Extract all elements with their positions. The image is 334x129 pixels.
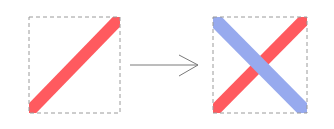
transformation-diagram [0, 0, 334, 129]
before-panel [24, 13, 125, 117]
red-diagonal-bar [24, 13, 125, 117]
after-panel [208, 13, 311, 117]
right-arrow-icon [130, 55, 198, 76]
